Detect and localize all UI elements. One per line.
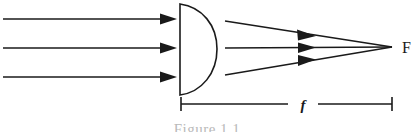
incoming-ray-3-arrowhead: [160, 72, 177, 83]
incoming-rays-group: [3, 14, 177, 83]
refracted-ray-2-arrowhead: [298, 43, 316, 54]
lens-group: [180, 4, 217, 95]
incoming-ray-2-arrowhead: [160, 43, 177, 54]
refracted-rays-group: [225, 21, 392, 75]
figure-caption: Figure 1.1: [0, 122, 414, 132]
incoming-ray-1-arrowhead: [160, 14, 177, 25]
plano-convex-lens: [180, 4, 217, 95]
focal-length-label: f: [301, 97, 308, 113]
optics-figure: F f Figure 1.1: [0, 0, 414, 132]
focal-length-dimension: f: [181, 97, 392, 113]
lens-ray-diagram: F f: [0, 0, 414, 132]
focal-point-label: F: [402, 39, 411, 56]
